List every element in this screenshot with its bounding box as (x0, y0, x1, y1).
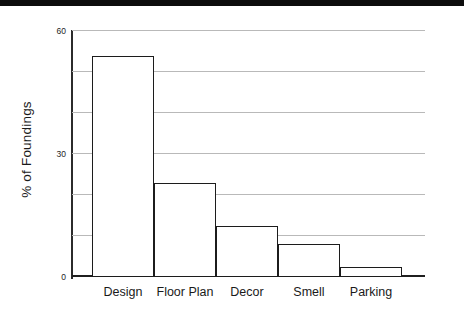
bar-decor (216, 226, 278, 277)
y-tick-label-30: 30 (44, 149, 66, 159)
x-axis-label-floor-plan: Floor Plan (154, 285, 216, 299)
plot-area (72, 31, 425, 277)
bar-floor-plan (154, 183, 216, 277)
bar-chart-figure: % of Foundings 03060DesignFloor PlanDeco… (0, 0, 464, 319)
y-tick-label-60: 60 (44, 26, 66, 36)
bar-design (92, 56, 154, 277)
x-axis-label-decor: Decor (216, 285, 278, 299)
y-tick-label-0: 0 (44, 272, 66, 282)
x-axis-label-design: Design (92, 285, 154, 299)
bar-parking (340, 267, 402, 277)
y-axis-title: % of Foundings (19, 80, 34, 220)
gridline-60 (72, 30, 425, 31)
bar-smell (278, 244, 340, 277)
x-axis-label-parking: Parking (340, 285, 402, 299)
x-axis-label-smell: Smell (278, 285, 340, 299)
